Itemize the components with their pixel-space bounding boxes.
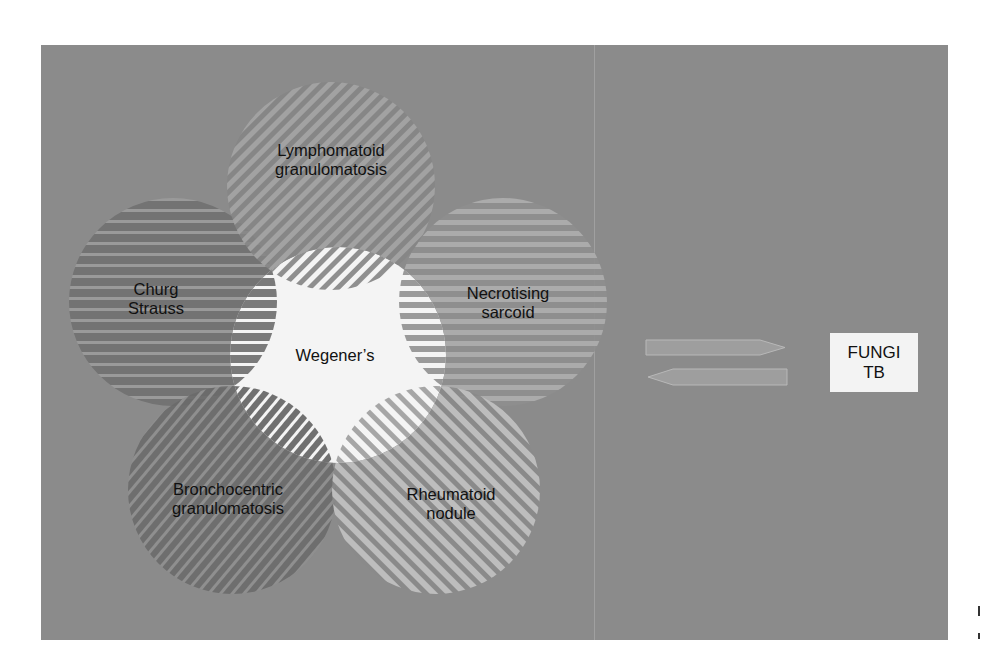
result-line-tb: TB	[863, 363, 885, 383]
label-bronchocentric: Bronchocentric granulomatosis	[172, 480, 284, 518]
scan-artifact	[978, 633, 980, 639]
label-wegeners: Wegener’s	[296, 346, 375, 365]
label-necrotising-sarcoid: Necrotising sarcoid	[467, 284, 550, 322]
left-arrow-icon	[648, 369, 787, 385]
scan-artifact	[978, 606, 980, 616]
label-rheumatoid-nodule: Rheumatoid nodule	[407, 485, 496, 523]
label-churg-strauss: Churg Strauss	[128, 280, 184, 318]
fungi-tb-box: FUNGI TB	[830, 333, 918, 392]
right-arrow-icon	[646, 340, 785, 355]
label-lymphomatoid: Lymphomatoid granulomatosis	[275, 141, 387, 179]
result-line-fungi: FUNGI	[848, 343, 901, 363]
